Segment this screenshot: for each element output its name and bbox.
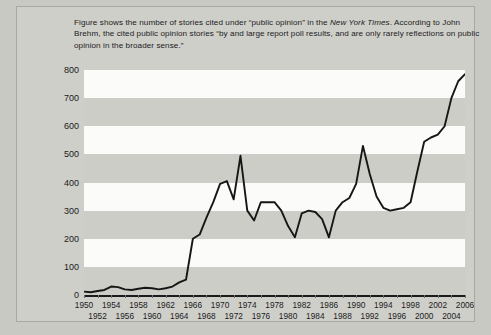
x-tick-1986 <box>329 295 330 298</box>
x-tick-label-2002: 2002 <box>429 300 447 310</box>
x-tick-1952 <box>98 295 99 298</box>
x-tick-label-1990: 1990 <box>347 300 365 310</box>
x-tick-1990 <box>356 295 357 298</box>
figure-panel: Figure shows the number of stories cited… <box>16 6 475 322</box>
figure-container: Figure shows the number of stories cited… <box>0 0 491 335</box>
x-tick-label-2004: 2004 <box>442 311 460 321</box>
x-tick-label-1958: 1958 <box>129 300 147 310</box>
x-tick-1970 <box>220 295 221 298</box>
x-tick-2000 <box>424 295 425 298</box>
y-tick-label-200: 200 <box>45 234 79 244</box>
caption-line1-part-a: Figure shows the number of stories cited… <box>74 18 330 27</box>
x-tick-label-1964: 1964 <box>170 311 188 321</box>
x-tick-label-1992: 1992 <box>361 311 379 321</box>
x-tick-2006 <box>465 295 466 298</box>
x-tick-label-1962: 1962 <box>156 300 174 310</box>
x-tick-label-1984: 1984 <box>306 311 324 321</box>
x-tick-1960 <box>152 295 153 298</box>
x-tick-1966 <box>193 295 194 298</box>
x-tick-label-1970: 1970 <box>211 300 229 310</box>
x-tick-1998 <box>411 295 412 298</box>
y-tick-label-0: 0 <box>45 290 79 300</box>
x-tick-label-1952: 1952 <box>88 311 106 321</box>
x-tick-label-1960: 1960 <box>143 311 161 321</box>
x-tick-label-2000: 2000 <box>415 311 433 321</box>
y-axis: 0100200300400500600700800 <box>41 70 79 295</box>
x-tick-1994 <box>383 295 384 298</box>
x-tick-label-1986: 1986 <box>320 300 338 310</box>
x-tick-label-1950: 1950 <box>75 300 93 310</box>
series-line-svg <box>84 70 465 295</box>
x-tick-label-1982: 1982 <box>292 300 310 310</box>
x-tick-label-2006: 2006 <box>456 300 474 310</box>
x-tick-label-1998: 1998 <box>401 300 419 310</box>
x-tick-label-1976: 1976 <box>252 311 270 321</box>
x-tick-label-1954: 1954 <box>102 300 120 310</box>
plot-area <box>84 70 465 295</box>
x-tick-label-1974: 1974 <box>238 300 256 310</box>
x-tick-label-1978: 1978 <box>265 300 283 310</box>
caption-line1-part-b: . <box>390 18 392 27</box>
y-tick-label-700: 700 <box>45 93 79 103</box>
x-tick-1992 <box>370 295 371 298</box>
x-tick-label-1996: 1996 <box>388 311 406 321</box>
y-tick-label-800: 800 <box>45 65 79 75</box>
caption-publication-name: New York Times <box>330 18 390 27</box>
x-tick-1964 <box>179 295 180 298</box>
x-tick-1988 <box>343 295 344 298</box>
line-series-wrap <box>84 70 465 295</box>
y-tick-label-300: 300 <box>45 206 79 216</box>
x-tick-1962 <box>166 295 167 298</box>
x-tick-label-1966: 1966 <box>184 300 202 310</box>
y-tick-label-100: 100 <box>45 262 79 272</box>
y-tick-label-400: 400 <box>45 178 79 188</box>
x-tick-1996 <box>397 295 398 298</box>
figure-caption: Figure shows the number of stories cited… <box>74 17 482 51</box>
x-tick-label-1972: 1972 <box>224 311 242 321</box>
x-tick-2004 <box>451 295 452 298</box>
x-tick-1956 <box>125 295 126 298</box>
x-tick-label-1956: 1956 <box>116 311 134 321</box>
x-tick-1968 <box>206 295 207 298</box>
series-line <box>84 74 465 292</box>
x-tick-label-1968: 1968 <box>197 311 215 321</box>
x-tick-1954 <box>111 295 112 298</box>
x-tick-2002 <box>438 295 439 298</box>
x-tick-label-1988: 1988 <box>333 311 351 321</box>
x-tick-1978 <box>275 295 276 298</box>
x-tick-1982 <box>302 295 303 298</box>
x-tick-1976 <box>261 295 262 298</box>
y-tick-label-600: 600 <box>45 121 79 131</box>
x-tick-1950 <box>84 295 85 298</box>
x-tick-1974 <box>247 295 248 298</box>
x-tick-1980 <box>288 295 289 298</box>
x-tick-1958 <box>138 295 139 298</box>
x-tick-1984 <box>315 295 316 298</box>
y-tick-label-500: 500 <box>45 149 79 159</box>
x-tick-label-1994: 1994 <box>374 300 392 310</box>
x-tick-label-1980: 1980 <box>279 311 297 321</box>
x-tick-1972 <box>234 295 235 298</box>
